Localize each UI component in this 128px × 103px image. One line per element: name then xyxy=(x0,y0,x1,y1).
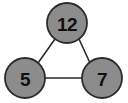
node-label-bottom-right: 7 xyxy=(97,69,107,90)
node-label-top: 12 xyxy=(57,14,77,35)
graph-diagram: 12 5 7 xyxy=(0,0,128,103)
graph-node-bottom-right[interactable]: 7 xyxy=(82,58,122,98)
edge-top-to-bottom-right xyxy=(79,39,90,63)
node-label-bottom-left: 5 xyxy=(20,69,31,90)
edge-top-to-bottom-left xyxy=(38,39,55,63)
graph-node-bottom-left[interactable]: 5 xyxy=(5,58,45,98)
graph-node-top[interactable]: 12 xyxy=(47,3,87,43)
graph-canvas: 12 5 7 xyxy=(0,0,128,103)
